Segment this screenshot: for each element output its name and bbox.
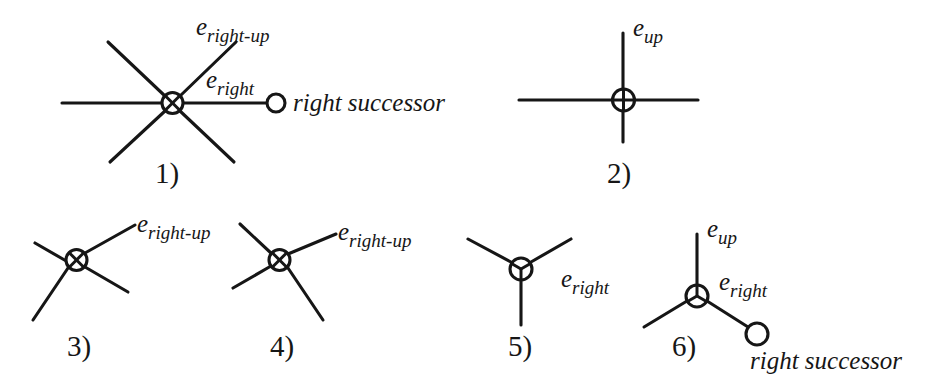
panel-1-vertex-crossed-circle <box>162 93 183 114</box>
panel-3-edge-right-down <box>85 267 128 292</box>
panel-5: eright 5) <box>468 239 610 363</box>
panel-3-vertex-crossed-circle <box>66 250 87 271</box>
panel-6-edge-right-down <box>707 301 748 327</box>
panel-1-right-successor-node <box>267 94 285 112</box>
panel-6-right-successor-label: right successor <box>750 347 902 374</box>
panel-4-vertex-crossed-circle <box>269 250 290 271</box>
panel-4-number: 4) <box>270 330 294 363</box>
panel-6-edge-left-down <box>644 301 687 327</box>
panel-5-number: 5) <box>508 330 532 363</box>
panel-2: eup 2) <box>519 14 698 190</box>
panel-3: eright-up 3) <box>33 210 210 363</box>
panel-3-label-e-right-up: eright-up <box>137 210 210 243</box>
panel-5-label-e-right: eright <box>561 265 610 298</box>
panel-5-edge-right-up <box>531 239 571 262</box>
panel-2-vertex-plus-circle <box>613 89 635 111</box>
panel-4: eright-up 4) <box>233 218 411 363</box>
panel-3-number: 3) <box>67 330 91 363</box>
panel-6-label-e-right: eright <box>719 268 768 301</box>
panel-4-edge-left-down <box>233 266 271 288</box>
panel-4-edge-right-up <box>288 234 336 254</box>
panel-1-edge-left-down <box>110 111 165 162</box>
panel-6-right-successor-node <box>746 323 768 345</box>
panel-4-label-e-right-up: eright-up <box>338 218 411 251</box>
panel-4-edge-left-up <box>240 224 272 254</box>
panel-4-edge-right-down <box>288 268 323 320</box>
panel-3-edge-left-down <box>33 268 68 320</box>
panel-1-label-e-right: eright <box>206 66 255 99</box>
panel-1-edge-right-down <box>180 111 234 162</box>
panel-2-label-e-up: eup <box>633 14 663 47</box>
panel-6-label-e-up: eup <box>707 215 737 248</box>
panel-2-number: 2) <box>607 157 631 190</box>
panel-1-right-successor-label: right successor <box>293 89 445 116</box>
panel-1-label-e-right-up: eright-up <box>196 13 269 46</box>
panel-1-number: 1) <box>155 157 179 190</box>
vertex-configuration-diagram: eright-up eright right successor 1) eup … <box>0 0 951 383</box>
panel-1-edge-left-up <box>108 42 165 96</box>
panel-1: eright-up eright right successor 1) <box>62 13 445 190</box>
panel-5-vertex-y-circle <box>510 258 532 280</box>
panel-5-edge-left-up <box>468 239 511 262</box>
panel-3-edge-left-up <box>35 243 68 262</box>
panel-6-number: 6) <box>672 330 696 363</box>
panel-6: eup eright right successor 6) <box>644 215 902 374</box>
panel-6-vertex-y-circle <box>686 285 708 307</box>
panel-3-edge-right-up <box>85 225 135 253</box>
